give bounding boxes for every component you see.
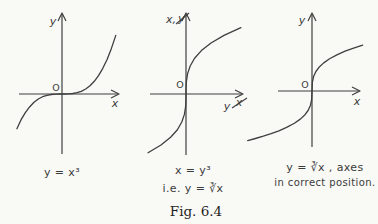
panel-y-equals-cube-root-x: y x O: [248, 13, 363, 147]
panel-y-equals-x-cubed: y x O: [17, 13, 119, 154]
x-axis-new-label-panel2: y: [223, 100, 231, 113]
origin-label-panel3: O: [301, 79, 308, 90]
y-axis-label-panel3: y: [298, 14, 306, 27]
panel-x-equals-y-cubed: x, y y x O: [148, 12, 247, 155]
y-axis-label-panel1: y: [49, 15, 57, 28]
figure-number-label: Fig. 6.4: [146, 203, 246, 219]
curve-x-equals-y-cubed: [148, 28, 241, 153]
caption-panel1: y = x³: [20, 166, 104, 179]
y-axis-old-label-panel2: y: [177, 12, 185, 25]
x-axis-old-label-panel2: x: [235, 96, 243, 109]
y-axis-new-label-panel2: x,: [165, 13, 176, 26]
x-axis-label-panel1: x: [111, 97, 119, 110]
caption-panel3-line2: in correct position.: [272, 177, 378, 188]
origin-label-panel2: O: [176, 79, 183, 90]
caption-panel2-line2: i.e. y = ∛x: [150, 182, 236, 195]
caption-panel3-line1: y = ∛x , axes: [272, 161, 378, 174]
curve-y-equals-cube-root-x: [248, 45, 363, 140]
curve-y-equals-x-cubed: [17, 35, 116, 128]
origin-label-panel1: O: [52, 82, 59, 93]
caption-panel2-line1: x = y³: [150, 164, 236, 177]
figure-6-4: y x O x, y y x O y x O: [0, 0, 378, 224]
x-axis-label-panel3: x: [353, 95, 361, 108]
